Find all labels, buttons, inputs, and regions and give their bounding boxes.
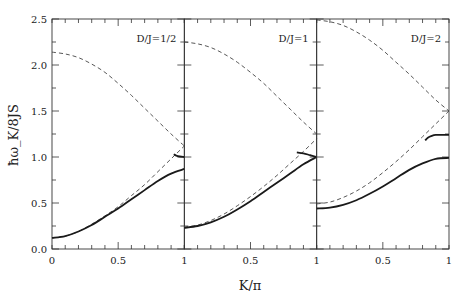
series-lower-solid [317,158,449,209]
y-tick-label: 2.0 [31,60,47,71]
series-upper-solid [174,154,185,157]
chart: D/J=1/2D/J=1D/J=2 0.00.51.01.52.02.5 00.… [0,0,461,302]
panel-frame [52,19,184,249]
y-tick-label: 1.0 [31,152,47,163]
panel-2: D/J=1 [184,19,316,249]
panel-3: D/J=2 [317,19,449,249]
chart-panels: D/J=1/2D/J=1D/J=2 [52,19,449,249]
y-tick-label: 1.5 [31,106,47,117]
y-axis: 0.00.51.01.52.02.5 [31,14,47,255]
panel-label: D/J=1 [279,33,309,44]
series-lower-dashed [317,111,449,204]
x-axis-title: K/π [239,278,262,293]
series-upper-dashed [52,52,184,146]
series-lower-solid [184,157,316,228]
series-lower-dashed [52,146,184,238]
x-tick-label: 1 [313,255,319,266]
x-tick-label: 1 [181,255,187,266]
series-lower-dashed [184,139,316,227]
y-tick-label: 2.5 [31,14,47,25]
panel-frame [184,19,316,249]
y-tick-label: 0.5 [31,198,47,209]
series-upper-solid [297,152,317,157]
panel-frame [317,19,449,249]
x-tick-label: 0.5 [375,255,391,266]
series-upper-dashed [184,42,316,134]
panel-label: D/J=1/2 [136,33,176,44]
y-axis-title: ħω_K/8JS [6,104,21,166]
x-tick-label: 0.5 [110,255,126,266]
y-tick-label: 0.0 [31,244,47,255]
x-tick-label: 0 [49,255,55,266]
panel-1: D/J=1/2 [52,19,184,249]
x-axis: 00.510.510.51 [49,255,452,266]
series-lower-solid [52,169,184,238]
x-tick-label: 0.5 [243,255,259,266]
panel-label: D/J=2 [411,33,441,44]
series-upper-solid [425,135,449,141]
x-tick-label: 1 [446,255,452,266]
